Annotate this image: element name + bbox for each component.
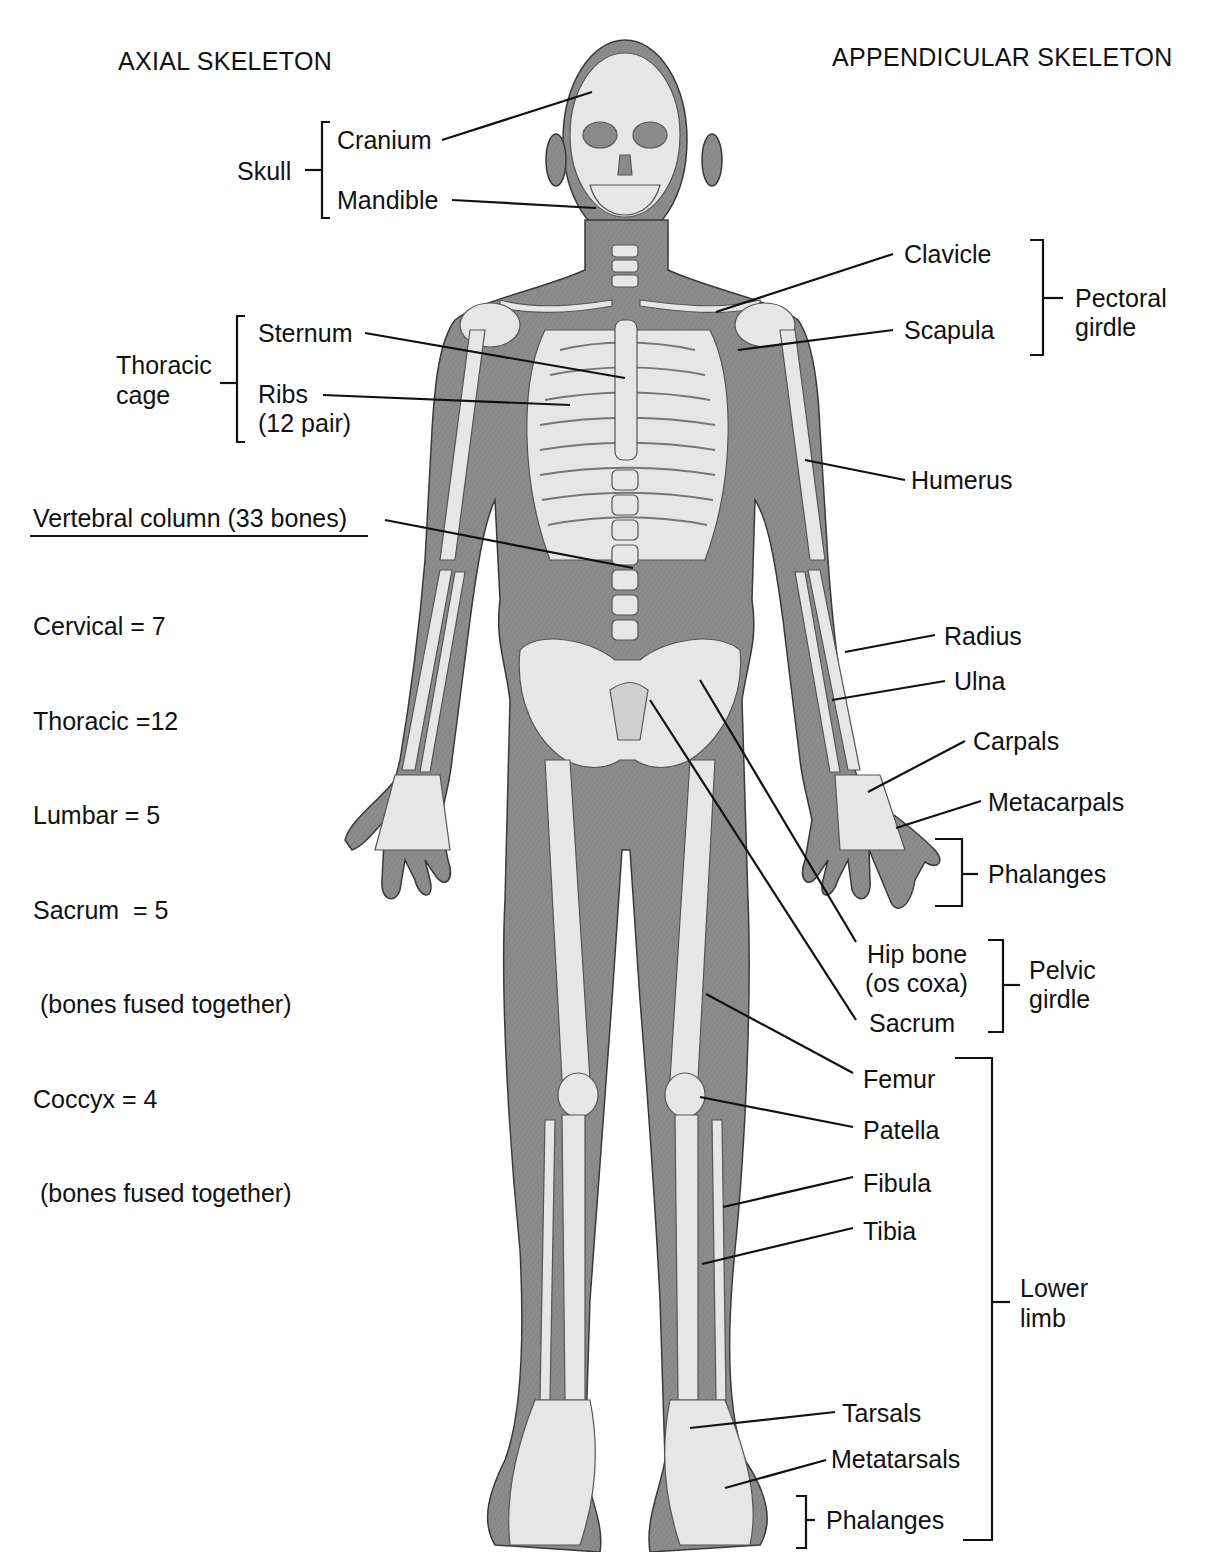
appendicular-skeleton-heading: APPENDICULAR SKELETON <box>832 42 1173 72</box>
vertebral-line-lumbar: Lumbar = 5 <box>33 800 292 832</box>
label-scapula: Scapula <box>904 315 994 345</box>
label-pectoral: Pectoral <box>1075 283 1167 313</box>
label-foot-phalanges: Phalanges <box>826 1505 944 1535</box>
vertebral-line-coccyx: Coccyx = 4 <box>33 1084 292 1116</box>
label-tibia: Tibia <box>863 1216 916 1246</box>
label-pectoral-girdle: girdle <box>1075 312 1136 342</box>
label-pelvic: Pelvic <box>1029 955 1096 985</box>
vertebral-line-coccyx-note: (bones fused together) <box>33 1178 292 1210</box>
label-pelvic-girdle: girdle <box>1029 984 1090 1014</box>
vertebral-column-breakdown: Cervical = 7 Thoracic =12 Lumbar = 5 Sac… <box>33 548 292 1241</box>
label-cage: cage <box>116 380 170 410</box>
label-hip-bone: Hip bone <box>867 939 967 969</box>
label-cranium: Cranium <box>337 125 431 155</box>
label-vertebral-column: Vertebral column (33 bones) <box>33 503 347 533</box>
label-lower-limb: limb <box>1020 1303 1066 1333</box>
label-thoracic: Thoracic <box>116 350 212 380</box>
label-lower: Lower <box>1020 1273 1088 1303</box>
label-radius: Radius <box>944 621 1022 651</box>
label-ulna: Ulna <box>954 666 1005 696</box>
vertebral-line-sacrum-note: (bones fused together) <box>33 989 292 1021</box>
label-metatarsals: Metatarsals <box>831 1444 960 1474</box>
label-hand-phalanges: Phalanges <box>988 859 1106 889</box>
vertebral-line-sacrum: Sacrum = 5 <box>33 895 292 927</box>
label-sternum: Sternum <box>258 318 352 348</box>
label-clavicle: Clavicle <box>904 239 992 269</box>
label-carpals: Carpals <box>973 726 1059 756</box>
label-ribs-count: (12 pair) <box>258 408 351 438</box>
label-metacarpals: Metacarpals <box>988 787 1124 817</box>
label-humerus: Humerus <box>911 465 1012 495</box>
axial-skeleton-heading: AXIAL SKELETON <box>118 46 332 76</box>
label-sacrum: Sacrum <box>869 1008 955 1038</box>
label-tarsals: Tarsals <box>842 1398 921 1428</box>
label-mandible: Mandible <box>337 185 438 215</box>
vertebral-line-cervical: Cervical = 7 <box>33 611 292 643</box>
label-os-coxa: (os coxa) <box>865 968 968 998</box>
label-fibula: Fibula <box>863 1168 931 1198</box>
label-patella: Patella <box>863 1115 939 1145</box>
label-skull: Skull <box>237 156 291 186</box>
vertebral-line-thoracic: Thoracic =12 <box>33 706 292 738</box>
label-femur: Femur <box>863 1064 935 1094</box>
label-ribs: Ribs <box>258 379 308 409</box>
